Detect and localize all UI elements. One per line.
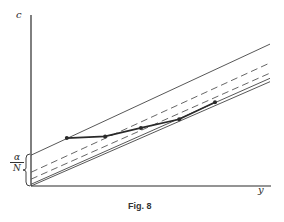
figure-8: c y α N Fig. 8 (0, 0, 284, 222)
figure-caption: Fig. 8 (128, 201, 152, 211)
alpha-n-brace (23, 154, 30, 186)
data-point (213, 100, 217, 104)
plot-area (0, 0, 284, 222)
alpha-over-n-label: α N (10, 152, 24, 173)
data-point (65, 136, 69, 140)
y-axis-label: y (258, 184, 264, 195)
series-layer (31, 44, 270, 186)
data-point (103, 134, 107, 138)
c-axis-label: c (16, 9, 22, 20)
data-point (139, 126, 143, 130)
alpha-numerator: α (10, 152, 24, 163)
series-line-4 (31, 82, 270, 186)
series-line-3 (31, 78, 270, 184)
series-line-1 (31, 63, 270, 172)
data-point (177, 117, 181, 121)
n-denominator: N (10, 163, 24, 173)
